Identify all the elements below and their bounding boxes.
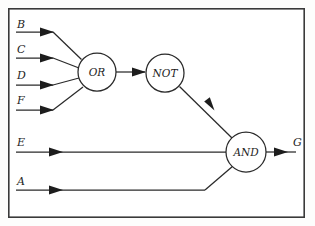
not-gate: NOT [146, 54, 184, 92]
or-gate: OR [78, 53, 116, 91]
output-label-g: G [293, 136, 302, 149]
and-gate: AND [226, 132, 266, 172]
input-label-a: A [16, 175, 25, 188]
input-label-d: D [16, 69, 26, 82]
not-gate-label: NOT [152, 67, 179, 79]
diagram-frame-border [9, 9, 304, 217]
input-label-c: C [17, 43, 26, 56]
input-label-f: F [16, 94, 25, 107]
or-gate-label: OR [89, 66, 106, 78]
input-label-b: B [16, 18, 25, 31]
diagram-canvas: OR NOT AND B C D F E A G [0, 0, 315, 226]
and-gate-label: AND [232, 146, 259, 158]
logic-diagram-figure: OR NOT AND B C D F E A G [0, 0, 315, 226]
input-label-e: E [16, 136, 25, 149]
